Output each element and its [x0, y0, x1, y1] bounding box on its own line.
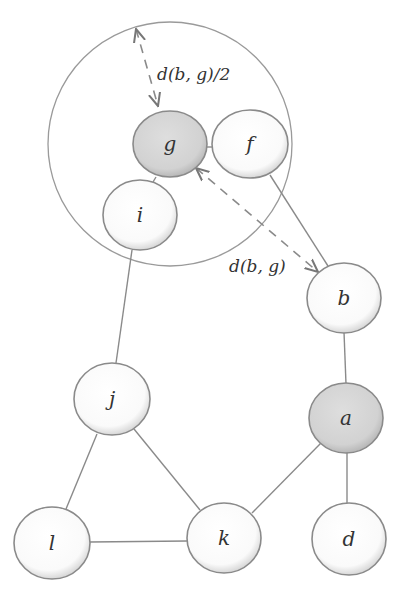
- edge-j-l: [66, 434, 97, 509]
- diagram-svg: g f i b j a l k: [0, 0, 410, 597]
- node-label-l: l: [49, 531, 55, 555]
- edge-j-k: [134, 429, 200, 510]
- node-label-b: b: [338, 286, 351, 310]
- edge-f-b: [270, 175, 328, 266]
- node-g: g: [133, 111, 207, 177]
- edge-b-a: [344, 332, 346, 384]
- node-a: a: [309, 383, 383, 453]
- node-label-a: a: [340, 406, 352, 430]
- distance-label: d(b, g): [229, 256, 286, 276]
- edge-g-i: [153, 177, 156, 182]
- edge-i-j: [116, 250, 132, 363]
- node-b: b: [307, 263, 381, 333]
- node-label-k: k: [218, 526, 230, 550]
- node-j: j: [74, 363, 150, 435]
- edge-l-k: [90, 541, 187, 542]
- radius-arrow: [136, 29, 158, 106]
- node-label-d: d: [343, 527, 356, 551]
- node-i: i: [103, 180, 177, 250]
- node-l: l: [14, 507, 90, 579]
- node-f: f: [212, 110, 288, 178]
- graph-diagram: g f i b j a l k: [0, 0, 410, 597]
- node-label-g: g: [164, 132, 177, 156]
- edge-a-k: [252, 443, 321, 513]
- radius-label: d(b, g)/2: [157, 64, 230, 84]
- node-label-i: i: [137, 203, 143, 227]
- node-d: d: [312, 503, 386, 575]
- node-k: k: [187, 503, 261, 573]
